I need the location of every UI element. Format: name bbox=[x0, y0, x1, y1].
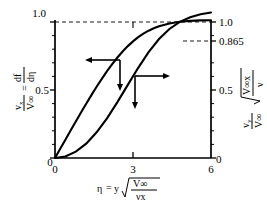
x-label-equals: = bbox=[106, 182, 112, 193]
asymptote-value-label: 0.865 bbox=[219, 35, 244, 47]
figure-container: 1.0 0.5 0 1.0 0.865 0.5 0 0 3 6 vx V∞ = … bbox=[0, 0, 267, 209]
y-right-tick-0p5: 0.5 bbox=[219, 84, 233, 96]
y-right-tick-0: 0 bbox=[216, 153, 222, 165]
y-right-tick-1p0: 1.0 bbox=[219, 16, 233, 28]
y-left-label-num2: df bbox=[12, 73, 23, 82]
x-tick-6: 6 bbox=[208, 163, 214, 175]
x-tick-3: 3 bbox=[130, 163, 136, 175]
x-label-eta: η bbox=[97, 183, 102, 194]
y-right-label-sqrt-den: ν bbox=[254, 82, 265, 87]
x-label-sqrt-den: νx bbox=[136, 191, 146, 202]
y-left-tick-0p5: 0.5 bbox=[35, 84, 49, 96]
blasius-velocity-profile-chart: 1.0 0.5 0 1.0 0.865 0.5 0 0 3 6 vx V∞ = … bbox=[0, 0, 267, 209]
y-left-label-den2: dη bbox=[25, 72, 36, 82]
y-left-label-equals: = bbox=[19, 85, 30, 91]
y-right-label-sqrt-num: V∞x bbox=[241, 76, 252, 95]
y-right-label-den: V∞ bbox=[253, 114, 264, 128]
y-left-tick-1p0: 1.0 bbox=[32, 7, 46, 19]
x-tick-0: 0 bbox=[52, 163, 58, 175]
x-label-y: y bbox=[114, 183, 119, 194]
x-label-sqrt-num: V∞ bbox=[133, 178, 147, 189]
y-left-label-den: V∞ bbox=[25, 96, 36, 110]
